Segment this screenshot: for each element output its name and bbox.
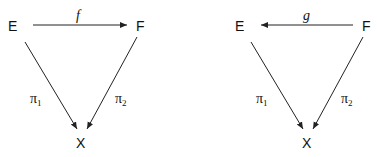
diagram-f: E F X f π1 π2 xyxy=(8,8,145,151)
diagram-g: E F X g π1 π2 xyxy=(235,8,371,151)
node-f: F xyxy=(362,18,371,34)
arrow-pi1 xyxy=(251,42,303,129)
label-pi2: π2 xyxy=(341,91,353,108)
arrow-pi2 xyxy=(87,37,137,129)
label-f: f xyxy=(76,8,82,23)
node-x: X xyxy=(302,135,312,151)
arrow-pi2 xyxy=(313,37,363,129)
label-g: g xyxy=(303,8,310,23)
label-pi2: π2 xyxy=(115,91,127,108)
label-pi1: π1 xyxy=(30,91,42,108)
label-pi1: π1 xyxy=(256,91,268,108)
commutative-diagrams: E F X f π1 π2 E F X g π1 π2 xyxy=(0,0,377,157)
node-e: E xyxy=(8,18,17,34)
node-f: F xyxy=(136,18,145,34)
node-e: E xyxy=(235,18,244,34)
node-x: X xyxy=(76,135,86,151)
arrow-pi1 xyxy=(25,42,77,129)
